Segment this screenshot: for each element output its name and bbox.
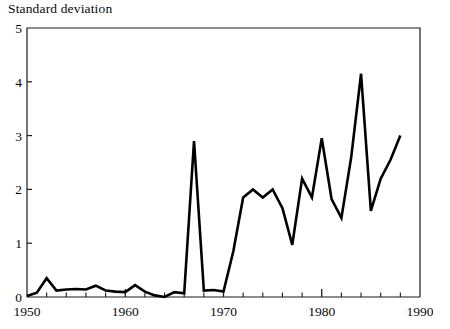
chart-figure: Standard deviation 012345 19501960197019… [0,0,450,329]
x-tick-label: 1980 [308,304,335,319]
chart-canvas: 012345 19501960197019801990 [0,0,450,329]
x-tick-label: 1950 [14,304,41,319]
y-tick-label: 2 [15,182,22,197]
y-tick-label: 4 [15,75,22,90]
plot-frame [27,28,420,297]
y-axis: 012345 [15,21,32,305]
y-tick-label: 5 [15,21,22,36]
x-tick-label: 1960 [112,304,139,319]
y-tick-label: 3 [15,129,22,144]
x-axis: 19501960197019801990 [14,289,434,319]
y-tick-label: 1 [15,236,22,251]
x-tick-label: 1970 [210,304,237,319]
x-tick-label: 1990 [407,304,434,319]
data-series-line [27,74,400,297]
y-tick-label: 0 [15,290,22,305]
